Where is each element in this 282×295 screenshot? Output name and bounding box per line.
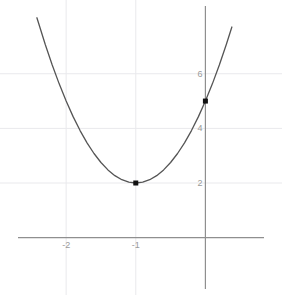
plot-area — [0, 0, 282, 295]
horizontal-grid-lines — [0, 74, 282, 183]
y-tick-label: 4 — [197, 124, 202, 133]
axes — [18, 6, 264, 289]
x-tick-label: -1 — [132, 241, 140, 250]
parabola-chart: -2-1 246 — [0, 0, 282, 295]
x-tick-label: -2 — [62, 241, 70, 250]
marked-points — [133, 99, 208, 186]
grid-lines — [0, 0, 282, 295]
data-point-vertex — [133, 181, 138, 186]
y-tick-label: 6 — [197, 69, 202, 78]
y-tick-label: 2 — [197, 179, 202, 188]
vertical-grid-lines — [66, 0, 136, 295]
data-point-y-intercept — [203, 99, 208, 104]
